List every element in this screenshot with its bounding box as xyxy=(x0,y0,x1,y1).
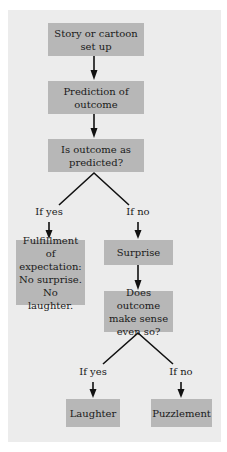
node-label: Fulfillment of expectation: No surprise.… xyxy=(19,234,82,312)
branch-label-q1-no: If no xyxy=(118,206,158,218)
node-label: Prediction of outcome xyxy=(51,85,141,111)
node-laughter: Laughter xyxy=(66,399,120,427)
node-label: Puzzlement xyxy=(152,407,211,420)
node-label: Story or cartoon set up xyxy=(51,27,141,53)
branch-label-q2-no: If no xyxy=(161,366,201,378)
node-story-setup: Story or cartoon set up xyxy=(48,23,144,56)
node-surprise: Surprise xyxy=(104,240,173,265)
branch-label-q1-yes: If yes xyxy=(29,206,69,218)
node-label: Surprise xyxy=(117,246,161,259)
node-fulfillment: Fulfillment of expectation: No surprise.… xyxy=(16,240,85,305)
node-question-as-predicted: Is outcome as predicted? xyxy=(48,139,144,172)
node-prediction: Prediction of outcome xyxy=(48,81,144,114)
node-label: Is outcome as predicted? xyxy=(51,143,141,169)
connector-lines xyxy=(0,0,227,452)
node-puzzlement: Puzzlement xyxy=(151,399,212,427)
node-label: Does outcome make sense even so? xyxy=(107,286,170,338)
node-question-makes-sense: Does outcome make sense even so? xyxy=(104,291,173,332)
node-label: Laughter xyxy=(70,407,117,420)
branch-label-q2-yes: If yes xyxy=(73,366,113,378)
